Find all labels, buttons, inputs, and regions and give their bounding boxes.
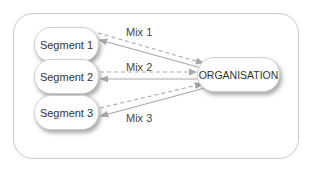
segment-3-node: Segment 3	[34, 95, 99, 130]
organisation-node: ORGANISATION	[197, 57, 280, 92]
segment-2-label: Segment 2	[40, 71, 93, 83]
mix-3-label: Mix 3	[126, 112, 152, 124]
segment-2-node: Segment 2	[34, 59, 99, 94]
segment-1-node: Segment 1	[34, 27, 99, 62]
segment-3-label: Segment 3	[40, 107, 93, 119]
segment-1-label: Segment 1	[40, 39, 93, 51]
mix3-solid-arrow	[101, 88, 205, 116]
mix1-solid-arrow	[100, 40, 205, 69]
mix3-dashed-arrow	[100, 84, 202, 108]
mix-1-label: Mix 1	[126, 26, 152, 38]
mix-2-label: Mix 2	[126, 61, 152, 73]
organisation-label: ORGANISATION	[199, 69, 279, 81]
